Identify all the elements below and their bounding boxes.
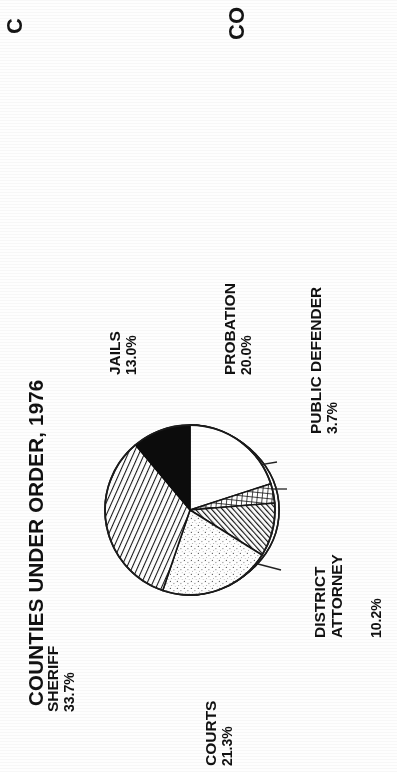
label-public-defender: PUBLIC DEFENDER 3.7% [307,287,340,434]
label-district-attorney-value: 10.2% [368,598,384,638]
label-probation-value: 20.0% [238,283,254,375]
label-sheriff-value: 33.7% [61,646,77,712]
label-probation: PROBATION 20.0% [221,283,254,375]
label-jails-name: JAILS [106,331,123,375]
label-courts-value: 21.3% [219,701,235,766]
label-courts: COURTS 21.3% [202,701,235,766]
label-district-attorney-name-line2: ATTORNEY [328,554,345,638]
slice-district-attorney [190,503,275,555]
label-public-defender-name: PUBLIC DEFENDER [307,287,324,434]
label-courts-name: COURTS [202,701,219,766]
top-fragment-1: C [2,18,28,34]
label-district-attorney: DISTRICT ATTORNEY [311,554,346,638]
slice-probation [190,425,271,510]
top-fragment-2: CO [224,7,250,40]
pie-slices [105,425,275,595]
label-sheriff: SHERIFF 33.7% [44,646,77,712]
slice-jails [135,425,190,510]
label-jails: JAILS 13.0% [106,331,139,375]
pie-3d-rim [190,425,287,595]
figure-page: C CO COUNTIES UNDER ORDER, 1976 [0,0,397,772]
label-district-attorney-value-wrap: 10.2% [367,598,385,638]
label-jails-value: 13.0% [123,331,139,375]
slice-sheriff [105,445,190,591]
label-sheriff-name: SHERIFF [44,646,61,712]
slice-courts [163,510,262,595]
label-probation-name: PROBATION [221,283,238,375]
slice-public-defender [190,484,275,510]
label-district-attorney-name-line1: DISTRICT [311,554,328,638]
label-public-defender-value: 3.7% [324,287,340,434]
